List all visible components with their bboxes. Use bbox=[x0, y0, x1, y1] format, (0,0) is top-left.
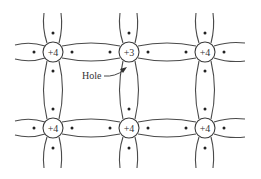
electron-dot bbox=[223, 127, 226, 130]
electron-dot bbox=[204, 147, 207, 150]
electron-dot bbox=[204, 32, 207, 35]
electron-dot bbox=[147, 127, 150, 130]
electron-dot bbox=[52, 147, 55, 150]
atom: +4 bbox=[119, 118, 139, 138]
electron-dot bbox=[147, 51, 150, 54]
electron-dot bbox=[71, 51, 74, 54]
atom-charge: +3 bbox=[124, 47, 135, 58]
electron-dot bbox=[128, 32, 131, 35]
bonds-vertical-top-stubs bbox=[43, 13, 213, 43]
atom-charge: +4 bbox=[200, 47, 211, 58]
electron-dot bbox=[33, 127, 36, 130]
electron-dot bbox=[128, 108, 131, 111]
atom: +4 bbox=[195, 118, 215, 138]
electron-dot bbox=[52, 70, 55, 73]
electron-dot bbox=[109, 127, 112, 130]
atom-impurity: +3 bbox=[119, 42, 139, 62]
hole-label: Hole bbox=[82, 70, 102, 81]
atom: +4 bbox=[43, 118, 63, 138]
electron-dot bbox=[204, 70, 207, 73]
electron-dot bbox=[52, 32, 55, 35]
atom: +4 bbox=[43, 42, 63, 62]
atom: +4 bbox=[195, 42, 215, 62]
atom-charge: +4 bbox=[200, 123, 211, 134]
electron-dot bbox=[223, 51, 226, 54]
crystal-lattice-diagram: +4 +3 +4 +4 +4 +4 Hole bbox=[0, 0, 261, 179]
electron-dot bbox=[185, 127, 188, 130]
bonds-vertical-bottom-stubs bbox=[43, 137, 213, 168]
atom-charge: +4 bbox=[124, 123, 135, 134]
electron-dot bbox=[128, 147, 131, 150]
electron-dot bbox=[204, 108, 207, 111]
electron-dot bbox=[71, 127, 74, 130]
electron-dot bbox=[52, 108, 55, 111]
electron-dot bbox=[185, 51, 188, 54]
electron-dot bbox=[33, 51, 36, 54]
atom-charge: +4 bbox=[48, 47, 59, 58]
electron-dot bbox=[109, 51, 112, 54]
atom-charge: +4 bbox=[48, 123, 59, 134]
